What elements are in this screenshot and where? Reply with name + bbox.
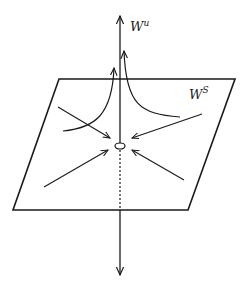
stable-arrow-upper-right [132, 114, 202, 138]
stable-arrow-lower-right [132, 150, 184, 180]
hyperbola-right [124, 51, 180, 117]
stable-manifold-label: WS [189, 85, 209, 102]
fixed-point [115, 143, 125, 149]
unstable-manifold-label: Wu [130, 18, 149, 34]
manifold-diagram: Wu WS [0, 0, 246, 290]
stable-arrow-lower-left [44, 150, 108, 187]
stable-arrow-upper-left [58, 107, 110, 138]
hyperbola-left [63, 68, 114, 131]
